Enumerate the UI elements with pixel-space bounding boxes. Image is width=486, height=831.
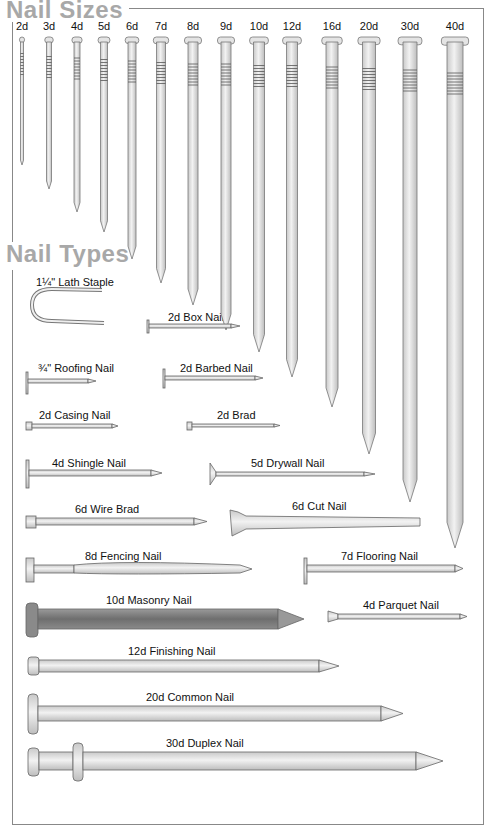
nail-illustrations xyxy=(0,0,486,831)
type-nails xyxy=(26,289,467,781)
